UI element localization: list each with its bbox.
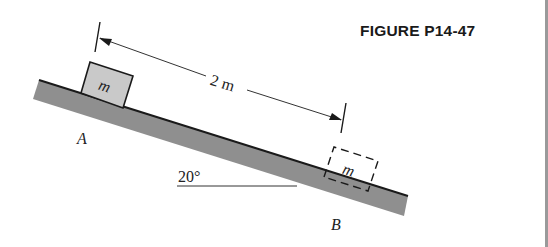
block-final-mass-label: m xyxy=(341,160,357,180)
arrowhead-right-icon xyxy=(329,113,342,120)
arrowhead-left-icon xyxy=(99,38,112,46)
dimension-tick-right xyxy=(341,103,346,133)
figure-container: 2 m m m 20° A B FIGURE P14-47 xyxy=(0,0,548,247)
distance-label: 2 m xyxy=(208,71,237,95)
point-b-label: B xyxy=(331,216,341,233)
dimension-tick-left xyxy=(95,22,100,52)
figure-title: FIGURE P14-47 xyxy=(360,22,475,40)
incline-plane xyxy=(33,80,408,216)
point-a-label: A xyxy=(76,130,87,147)
incline-angle-label: 20° xyxy=(178,168,200,185)
dimension-line-right xyxy=(247,90,341,120)
